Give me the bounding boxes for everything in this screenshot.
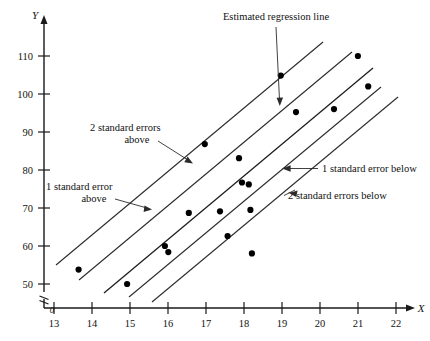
- data-point: [246, 181, 252, 187]
- data-point: [239, 179, 245, 185]
- y-axis-arrowhead: [41, 15, 48, 24]
- regression-band-chart: 110 100 90 80 70 60 50 13 14 15 16 17 18…: [0, 0, 430, 341]
- y-tick-label: 60: [23, 241, 34, 252]
- annotation-1se-above-line2: above: [81, 193, 106, 204]
- data-point: [365, 83, 371, 89]
- annotation-1se-above-line1: 1 standard error: [46, 181, 113, 192]
- x-tick-label: 18: [239, 318, 250, 329]
- data-point: [186, 210, 192, 216]
- annotation-2se-above-leader: [158, 141, 188, 160]
- y-tick-label: 70: [23, 203, 34, 214]
- x-tick-label: 20: [315, 318, 326, 329]
- y-axis: [40, 15, 49, 308]
- y-tick-label: 80: [23, 165, 34, 176]
- annotation-2se-above-line1: 2 standard errors: [90, 122, 161, 133]
- annotation-2se-above-line2: above: [124, 134, 149, 145]
- annotation-1se-below-label: 1 standard error below: [322, 163, 417, 174]
- annotation-regression-label: Estimated regression line: [223, 11, 329, 22]
- x-tick-label: 13: [49, 318, 60, 329]
- x-tick-labels: 13 14 15 16 17 18 19 20 21 22: [49, 318, 402, 329]
- data-point: [76, 267, 82, 273]
- annotation-1se-above: 1 standard error above: [46, 181, 152, 212]
- annotation-2se-above: 2 standard errors above: [90, 122, 193, 164]
- y-tick-label: 110: [18, 51, 33, 62]
- x-tick-label: 21: [353, 318, 364, 329]
- x-tick-label: 22: [391, 318, 402, 329]
- y-tick-labels: 110 100 90 80 70 60 50: [17, 51, 33, 290]
- line-regression: [104, 68, 373, 293]
- y-axis-title: Y: [32, 9, 40, 21]
- data-point: [225, 233, 231, 239]
- x-tick-label: 17: [201, 318, 212, 329]
- x-axis-arrowhead: [406, 305, 415, 312]
- data-point: [293, 109, 299, 115]
- annotation-2se-below-label: 2 standard errors below: [288, 190, 387, 201]
- annotation-1se-above-arrowhead: [144, 206, 152, 213]
- annotation-regression: Estimated regression line: [223, 11, 329, 106]
- chart-canvas: 110 100 90 80 70 60 50 13 14 15 16 17 18…: [0, 0, 430, 341]
- y-tick-label: 100: [17, 89, 33, 100]
- data-point: [331, 106, 337, 112]
- data-point: [124, 281, 130, 287]
- annotation-regression-leader: [276, 27, 280, 100]
- x-axis: [44, 305, 415, 312]
- data-point: [236, 155, 242, 161]
- x-tick-label: 16: [163, 318, 174, 329]
- x-tick-label: 15: [125, 318, 136, 329]
- x-tick-label: 19: [277, 318, 288, 329]
- annotation-1se-above-leader: [115, 199, 147, 208]
- x-axis-title: X: [417, 302, 426, 314]
- data-point: [355, 53, 361, 59]
- y-tick-label: 90: [23, 127, 34, 138]
- data-point: [202, 141, 208, 147]
- data-point: [165, 249, 171, 255]
- x-tick-label: 14: [87, 318, 98, 329]
- line-1se-above: [79, 52, 352, 280]
- origin-label: 0: [50, 305, 55, 315]
- data-point: [247, 207, 253, 213]
- data-point: [217, 208, 223, 214]
- data-point: [249, 250, 255, 256]
- annotation-2se-below: 2 standard errors below: [284, 190, 387, 201]
- annotation-1se-below: 1 standard error below: [282, 163, 417, 174]
- data-point: [162, 243, 168, 249]
- y-tick-label: 50: [23, 279, 34, 290]
- annotation-regression-arrowhead: [277, 98, 284, 107]
